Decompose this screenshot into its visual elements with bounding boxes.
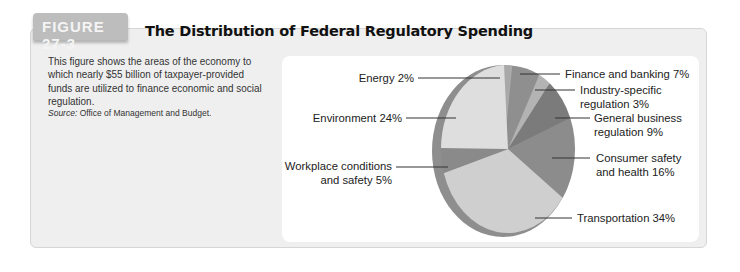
label-finance: Finance and banking 7% — [565, 67, 689, 81]
label-consumer-line2: and health 16% — [596, 165, 675, 179]
label-energy: Energy 2% — [330, 71, 414, 85]
label-industry-line2: regulation 3% — [580, 97, 649, 111]
label-general-line2: regulation 9% — [594, 125, 663, 139]
label-general-line1: General business — [594, 111, 682, 125]
label-industry-line1: Industry-specific — [580, 83, 662, 97]
label-consumer-line1: Consumer safety — [596, 151, 681, 165]
label-workplace-line1: Workplace conditions — [268, 159, 392, 173]
label-transportation: Transportation 34% — [577, 211, 675, 225]
label-environment: Environment 24% — [300, 111, 402, 125]
label-workplace-line2: and safety 5% — [268, 173, 392, 187]
